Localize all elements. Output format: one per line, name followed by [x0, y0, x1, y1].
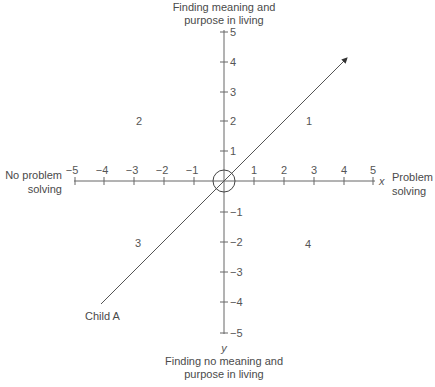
- svg-text:−3: −3: [230, 266, 243, 278]
- svg-text:3: 3: [230, 86, 236, 98]
- quadrant-2-label: 2: [136, 115, 142, 127]
- svg-text:2: 2: [281, 164, 287, 176]
- quadrant-4-label: 4: [305, 238, 311, 250]
- svg-text:1: 1: [230, 145, 236, 157]
- svg-text:−2: −2: [156, 164, 169, 176]
- svg-text:−1: −1: [186, 164, 199, 176]
- svg-text:−1: −1: [230, 206, 243, 218]
- svg-text:−5: −5: [230, 327, 243, 339]
- quadrant-1-label: 1: [306, 115, 312, 127]
- top-axis-label-line1: Finding meaning and: [173, 1, 276, 13]
- svg-text:−3: −3: [126, 164, 139, 176]
- svg-text:−5: −5: [66, 164, 79, 176]
- svg-text:−4: −4: [96, 164, 109, 176]
- x-axis-variable: x: [378, 175, 385, 187]
- svg-text:5: 5: [370, 164, 376, 176]
- svg-text:2: 2: [230, 115, 236, 127]
- top-axis-label-line2: purpose in living: [184, 14, 264, 26]
- right-axis-label-line2: solving: [392, 185, 426, 197]
- svg-text:5: 5: [230, 26, 236, 38]
- child-a-label: Child A: [85, 310, 121, 322]
- quadrant-3-label: 3: [135, 237, 141, 249]
- svg-text:4: 4: [230, 56, 236, 68]
- coordinate-diagram: Finding meaning and purpose in living y …: [0, 0, 435, 387]
- left-axis-label-line2: solving: [28, 183, 62, 195]
- y-axis-tick-labels: 5 4 3 2 1 −1 −2 −3 −4 −5: [230, 26, 243, 339]
- y-axis-variable: y: [220, 342, 228, 354]
- left-axis-label-line1: No problem: [5, 169, 62, 181]
- bottom-axis-label-line1: Finding no meaning and: [165, 355, 283, 367]
- svg-text:−4: −4: [230, 296, 243, 308]
- svg-text:3: 3: [311, 164, 317, 176]
- right-axis-label-line1: Problem: [392, 171, 433, 183]
- bottom-axis-label-line2: purpose in living: [184, 368, 264, 380]
- svg-text:1: 1: [251, 164, 257, 176]
- svg-text:4: 4: [341, 164, 347, 176]
- svg-text:−2: −2: [230, 236, 243, 248]
